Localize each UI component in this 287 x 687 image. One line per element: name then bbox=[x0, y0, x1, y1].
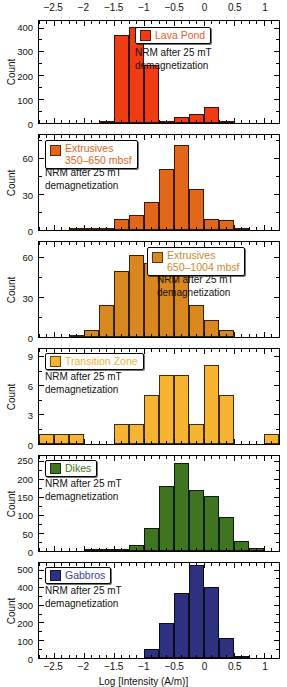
axis-tick bbox=[166, 548, 167, 551]
axis-tick bbox=[136, 441, 137, 444]
annotation-line-1: NRM after 25 mT bbox=[45, 167, 122, 180]
axis-tick bbox=[144, 439, 145, 444]
axis-tick bbox=[99, 563, 100, 566]
axis-tick bbox=[196, 135, 197, 138]
axis-tick bbox=[196, 227, 197, 230]
axis-tick bbox=[39, 470, 42, 471]
axis-tick bbox=[189, 655, 190, 658]
axis-tick bbox=[219, 655, 220, 658]
axis-tick bbox=[264, 225, 265, 230]
legend-extrusives[interactable]: Extrusives350–650 mbsf bbox=[45, 140, 138, 169]
plot-area: Lava PondNRM after 25 mTdemagnetization bbox=[38, 20, 280, 124]
axis-tick bbox=[274, 51, 279, 52]
axis-tick bbox=[174, 21, 175, 26]
axis-tick bbox=[61, 655, 62, 658]
legend-text: Dikes bbox=[65, 462, 91, 474]
axis-tick bbox=[264, 21, 265, 26]
axis-tick bbox=[181, 120, 182, 123]
axis-tick bbox=[234, 332, 235, 337]
histogram-bar bbox=[204, 496, 219, 551]
axis-tick bbox=[211, 655, 212, 658]
axis-tick bbox=[196, 21, 197, 24]
axis-tick bbox=[39, 515, 44, 516]
axis-tick bbox=[129, 135, 130, 138]
axis-tick bbox=[129, 349, 130, 352]
axis-tick bbox=[39, 28, 44, 29]
axis-tick bbox=[274, 640, 279, 641]
axis-tick bbox=[276, 87, 279, 88]
axis-tick bbox=[211, 349, 212, 352]
axis-tick bbox=[271, 563, 272, 566]
legend-transition-zone[interactable]: Transition Zone bbox=[45, 353, 144, 370]
axis-tick bbox=[106, 563, 107, 566]
axis-tick bbox=[91, 227, 92, 230]
axis-tick bbox=[271, 456, 272, 459]
annotation-line-2: demagnetization bbox=[45, 384, 122, 397]
y-tick-label: 6 bbox=[28, 380, 33, 391]
axis-tick bbox=[249, 21, 250, 24]
axis-tick bbox=[121, 135, 122, 138]
axis-tick bbox=[196, 441, 197, 444]
legend-extrusives[interactable]: Extrusives650–1004 mbsf bbox=[147, 247, 245, 276]
y-tick-label: 100 bbox=[17, 94, 33, 105]
axis-tick bbox=[211, 441, 212, 444]
axis-tick bbox=[196, 563, 197, 566]
axis-tick bbox=[39, 356, 44, 357]
axis-tick bbox=[144, 135, 145, 140]
axis-tick bbox=[39, 176, 42, 177]
axis-tick bbox=[256, 456, 257, 459]
legend-text: Gabbros bbox=[65, 569, 105, 581]
legend-label: Lava Pond bbox=[155, 29, 205, 41]
panel-annotation: NRM after 25 mTdemagnetization bbox=[45, 371, 122, 396]
axis-tick bbox=[256, 135, 257, 138]
axis-tick bbox=[226, 21, 227, 24]
axis-tick bbox=[274, 497, 279, 498]
legend-dikes[interactable]: Dikes bbox=[45, 460, 97, 477]
axis-tick bbox=[264, 118, 265, 123]
axis-tick bbox=[76, 655, 77, 658]
legend-label: Transition Zone bbox=[65, 355, 138, 367]
axis-tick bbox=[39, 461, 44, 462]
axis-tick bbox=[151, 334, 152, 337]
axis-tick bbox=[39, 99, 44, 100]
histogram-bar bbox=[129, 255, 144, 337]
axis-tick bbox=[39, 614, 42, 615]
annotation-line-2: demagnetization bbox=[157, 287, 234, 300]
axis-tick bbox=[136, 655, 137, 658]
y-tick-label: 200 bbox=[17, 618, 33, 629]
axis-tick bbox=[91, 242, 92, 245]
axis-tick bbox=[106, 548, 107, 551]
axis-tick bbox=[166, 21, 167, 24]
axis-tick bbox=[61, 242, 62, 245]
legend-swatch-icon bbox=[140, 30, 151, 41]
axis-tick bbox=[276, 400, 279, 401]
axis-tick bbox=[46, 227, 47, 230]
axis-tick bbox=[39, 297, 44, 298]
x-tick-label-bottom: −2 bbox=[78, 661, 89, 672]
legend-lava-pond[interactable]: Lava Pond bbox=[135, 27, 211, 44]
axis-tick bbox=[274, 570, 279, 571]
axis-tick bbox=[91, 655, 92, 658]
histogram-panel: Count0100200300400Lava PondNRM after 25 … bbox=[0, 20, 287, 124]
axis-tick bbox=[99, 441, 100, 444]
histogram-bar bbox=[189, 490, 204, 551]
axis-tick bbox=[39, 242, 40, 245]
y-tick-label: 60 bbox=[22, 153, 33, 164]
axis-tick bbox=[159, 242, 160, 245]
axis-tick bbox=[271, 135, 272, 138]
legend-swatch-icon bbox=[152, 252, 163, 263]
axis-tick bbox=[219, 548, 220, 551]
axis-tick bbox=[159, 120, 160, 123]
axis-tick bbox=[39, 337, 44, 338]
axis-tick bbox=[211, 120, 212, 123]
histogram-panel: Count0369Transition ZoneNRM after 25 mTd… bbox=[0, 348, 287, 445]
axis-tick bbox=[189, 456, 190, 459]
axis-tick bbox=[256, 655, 257, 658]
axis-tick bbox=[211, 563, 212, 566]
legend-gabbros[interactable]: Gabbros bbox=[45, 567, 111, 584]
axis-tick bbox=[211, 548, 212, 551]
legend-sublabel: 350–650 mbsf bbox=[65, 155, 132, 167]
panel-annotation: NRM after 25 mTdemagnetization bbox=[45, 478, 122, 503]
histogram-bar bbox=[174, 593, 189, 658]
axis-tick bbox=[151, 655, 152, 658]
